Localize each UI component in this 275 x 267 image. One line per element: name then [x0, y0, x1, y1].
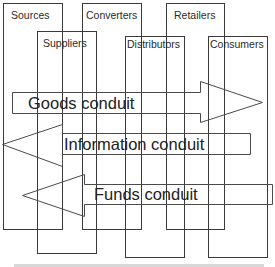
entity-label: Distributors: [127, 38, 180, 50]
entity-label: Consumers: [210, 38, 264, 50]
entity-label: Retailers: [174, 9, 215, 21]
entity-label: Sources: [11, 9, 50, 21]
conduit-label: Information conduit: [64, 135, 205, 153]
conduit-label: Funds conduit: [94, 185, 198, 203]
entity-label: Suppliers: [43, 37, 87, 49]
information-conduit-arrow: Information conduit: [3, 125, 251, 167]
supply-chain-conduits-diagram: Sources Converters Retailers Suppliers D…: [0, 0, 275, 267]
entity-label: Converters: [86, 9, 137, 21]
funds-conduit-arrow: Funds conduit: [23, 175, 273, 217]
conduit-label: Goods conduit: [28, 94, 135, 112]
